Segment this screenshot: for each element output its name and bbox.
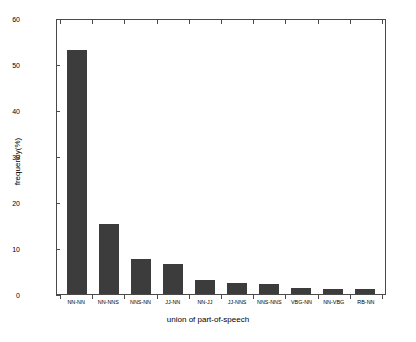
bar bbox=[99, 224, 119, 294]
bar-slot bbox=[285, 20, 317, 294]
x-tick-mark-top bbox=[189, 20, 190, 24]
x-tick-mark bbox=[124, 295, 125, 299]
bar-slot bbox=[317, 20, 349, 294]
x-tick-label: NN-NN bbox=[67, 299, 84, 305]
bar-slot bbox=[93, 20, 125, 294]
bar bbox=[195, 280, 215, 294]
y-tick-label: 60 bbox=[0, 16, 20, 23]
bar bbox=[259, 284, 279, 294]
y-tick-label: 50 bbox=[0, 62, 20, 69]
bar bbox=[323, 289, 343, 294]
x-tick-mark-top bbox=[350, 20, 351, 24]
bar-chart-figure: frequency(%) 0102030405060 NN-NNNN-NNSNN… bbox=[0, 0, 416, 342]
y-tick-mark bbox=[56, 203, 60, 204]
x-tick-mark bbox=[92, 295, 93, 299]
bar-slot bbox=[189, 20, 221, 294]
x-tick-mark-top bbox=[285, 20, 286, 24]
x-tick-label: NN-VBG bbox=[323, 299, 344, 305]
x-tick-label: NNS-NN bbox=[130, 299, 151, 305]
bar-slot bbox=[157, 20, 189, 294]
y-tick-label: 40 bbox=[0, 108, 20, 115]
y-tick-mark bbox=[56, 65, 60, 66]
x-tick-mark bbox=[318, 295, 319, 299]
bar bbox=[67, 50, 87, 294]
plot-area bbox=[56, 19, 386, 295]
x-tick-mark bbox=[285, 295, 286, 299]
x-tick-mark-top bbox=[157, 20, 158, 24]
x-tick-mark-top bbox=[60, 20, 61, 24]
x-tick-mark-top bbox=[221, 20, 222, 24]
y-tick-label: 20 bbox=[0, 200, 20, 207]
x-tick-label: JJ-NNS bbox=[228, 299, 247, 305]
x-tick-mark-top bbox=[318, 20, 319, 24]
x-tick-mark-top bbox=[92, 20, 93, 24]
x-axis-title: union of part-of-speech bbox=[0, 315, 416, 324]
y-tick-label: 30 bbox=[0, 154, 20, 161]
bar-series bbox=[57, 20, 385, 294]
x-tick-mark bbox=[157, 295, 158, 299]
x-tick-mark bbox=[253, 295, 254, 299]
y-tick-mark bbox=[56, 249, 60, 250]
bar bbox=[355, 289, 375, 294]
y-tick-mark bbox=[56, 157, 60, 158]
bar bbox=[291, 288, 311, 294]
x-tick-mark bbox=[350, 295, 351, 299]
x-tick-mark bbox=[60, 295, 61, 299]
y-tick-label: 10 bbox=[0, 246, 20, 253]
bar bbox=[163, 264, 183, 294]
x-tick-mark bbox=[189, 295, 190, 299]
bar-slot bbox=[61, 20, 93, 294]
bar bbox=[131, 259, 151, 294]
x-tick-label: NNS-NNS bbox=[257, 299, 282, 305]
bar-slot bbox=[253, 20, 285, 294]
x-tick-label: VBG-NN bbox=[291, 299, 312, 305]
bar-slot bbox=[349, 20, 381, 294]
bar bbox=[227, 283, 247, 294]
bar-slot bbox=[221, 20, 253, 294]
x-tick-mark bbox=[221, 295, 222, 299]
x-tick-mark-top bbox=[382, 20, 383, 24]
x-tick-label: NN-JJ bbox=[197, 299, 212, 305]
x-tick-mark-top bbox=[253, 20, 254, 24]
y-tick-label: 0 bbox=[0, 292, 20, 299]
x-tick-mark bbox=[382, 295, 383, 299]
y-tick-mark bbox=[56, 111, 60, 112]
bar-slot bbox=[125, 20, 157, 294]
x-tick-label: NN-NNS bbox=[98, 299, 119, 305]
x-tick-label: JJ-NN bbox=[165, 299, 180, 305]
x-tick-mark-top bbox=[124, 20, 125, 24]
x-tick-label: RB-NN bbox=[357, 299, 374, 305]
